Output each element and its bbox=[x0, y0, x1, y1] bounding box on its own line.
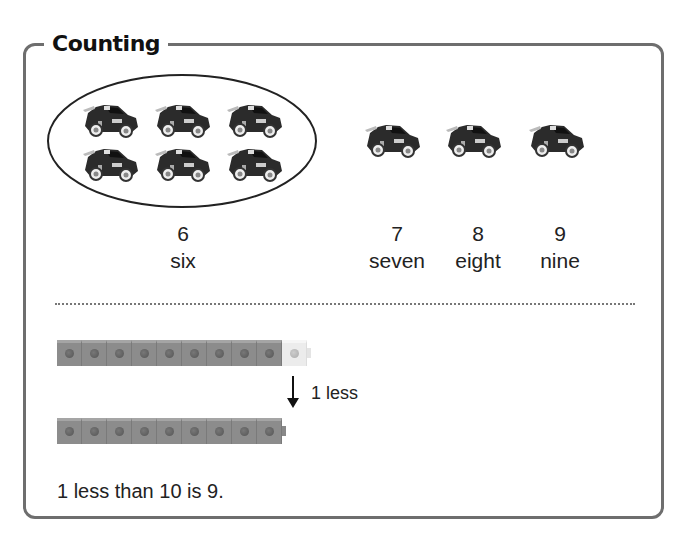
down-arrow-icon bbox=[292, 376, 294, 402]
statement-text: 1 less than 10 is 9. bbox=[57, 480, 224, 503]
white-cube bbox=[282, 340, 307, 366]
grey-cube bbox=[82, 340, 107, 366]
count-word-8: eight bbox=[433, 248, 523, 274]
grey-cube bbox=[182, 418, 207, 444]
toy-race-car-icon bbox=[528, 121, 586, 159]
toy-race-car-icon bbox=[82, 101, 140, 139]
section-title-container: Counting bbox=[44, 30, 168, 58]
toy-race-car-icon bbox=[364, 121, 422, 159]
toy-race-car-icon bbox=[82, 145, 140, 183]
cube-train-ten bbox=[57, 340, 311, 366]
grey-cube bbox=[257, 340, 282, 366]
grey-cube bbox=[57, 340, 82, 366]
count-number-8: 8 bbox=[438, 221, 518, 247]
grey-cube bbox=[132, 340, 157, 366]
group-number: 6 bbox=[143, 221, 223, 247]
toy-race-car-icon bbox=[445, 121, 503, 159]
grey-cube bbox=[182, 340, 207, 366]
grey-cube bbox=[132, 418, 157, 444]
grey-cube bbox=[232, 418, 257, 444]
count-word-7: seven bbox=[352, 248, 442, 274]
toy-race-car-icon bbox=[154, 145, 212, 183]
section-title: Counting bbox=[52, 31, 160, 56]
dotted-divider bbox=[55, 303, 635, 305]
toy-race-car-icon bbox=[226, 145, 284, 183]
count-word-9: nine bbox=[515, 248, 605, 274]
toy-race-car-icon bbox=[226, 101, 284, 139]
cube-connector bbox=[282, 426, 286, 436]
toy-race-car-icon bbox=[154, 101, 212, 139]
group-word: six bbox=[138, 248, 228, 274]
group-of-six-oval bbox=[47, 74, 317, 208]
grey-cube bbox=[57, 418, 82, 444]
grey-cube bbox=[107, 340, 132, 366]
grey-cube bbox=[207, 418, 232, 444]
one-less-label: 1 less bbox=[311, 383, 358, 404]
grey-cube bbox=[232, 340, 257, 366]
grey-cube bbox=[107, 418, 132, 444]
count-number-7: 7 bbox=[357, 221, 437, 247]
grey-cube bbox=[157, 418, 182, 444]
grey-cube bbox=[207, 340, 232, 366]
grey-cube bbox=[157, 340, 182, 366]
grey-cube bbox=[257, 418, 282, 444]
cube-connector bbox=[307, 348, 311, 358]
cube-train-nine bbox=[57, 418, 286, 444]
count-number-9: 9 bbox=[520, 221, 600, 247]
grey-cube bbox=[82, 418, 107, 444]
